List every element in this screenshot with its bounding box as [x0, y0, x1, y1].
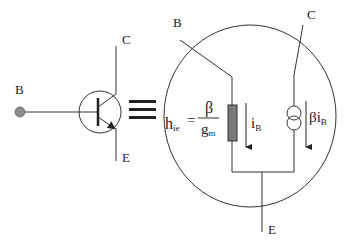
transistor-symbol: B C E	[15, 32, 131, 165]
eq-collector-label: C	[307, 7, 316, 22]
circuit-diagram: B C E B C E hie =	[0, 0, 345, 243]
collector-lead	[98, 94, 116, 107]
symbol-base-label: B	[15, 82, 24, 97]
svg-text:=: =	[187, 112, 195, 128]
equivalent-circuit: B C E hie = β gm iB βiB	[164, 7, 336, 237]
svg-text:gm: gm	[201, 121, 216, 138]
hie-equation: hie = β gm	[165, 99, 219, 138]
eq-collector-wire	[294, 25, 303, 106]
svg-text:β: β	[205, 99, 213, 117]
current-source-icon	[287, 106, 301, 130]
base-node	[15, 107, 25, 117]
symbol-collector-label: C	[122, 32, 131, 47]
diagram-canvas: B C E B C E hie =	[0, 0, 345, 243]
eq-emitter-label: E	[268, 222, 276, 237]
eq-base-label: B	[173, 15, 182, 30]
equivalence-symbol	[129, 100, 156, 119]
resistor-hie	[228, 105, 237, 141]
base-current-label: iB	[251, 115, 261, 133]
svg-text:hie: hie	[165, 115, 180, 133]
symbol-emitter-label: E	[122, 150, 130, 165]
emitter-lead	[98, 117, 114, 128]
eq-base-wire	[180, 40, 232, 105]
source-current-label: βiB	[309, 109, 327, 127]
